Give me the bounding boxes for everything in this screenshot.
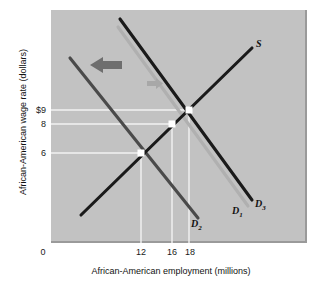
curve-label-s-text: S <box>256 38 262 49</box>
y-axis-title: African-American wage rate (dollars) <box>18 22 28 222</box>
equilibrium-point-d1-s <box>169 121 176 128</box>
leftward-shift-arrow <box>90 57 122 73</box>
curve-label-s: S <box>256 38 262 49</box>
demand-curve-d2 <box>70 58 198 218</box>
curve-label-d3: D3 <box>255 198 266 212</box>
curve-label-d2-sub: 2 <box>198 224 202 232</box>
curve-label-d2: D2 <box>191 218 202 232</box>
curve-label-d1-sub: 1 <box>239 211 243 219</box>
chart-figure: $9 8 6 0 12 16 18 African-American wage … <box>0 0 325 287</box>
supply-curve-s <box>81 48 252 215</box>
curve-label-d1: D1 <box>232 205 243 219</box>
equilibrium-point-d3-s <box>186 107 193 114</box>
equilibrium-point-d2-s <box>138 150 145 157</box>
x-tick-label-16: 16 <box>162 247 182 257</box>
x-axis-title: African-American employment (millions) <box>31 266 311 276</box>
x-tick-label-0: 0 <box>33 247 53 257</box>
curve-label-d3-sub: 3 <box>262 204 266 212</box>
x-tick-label-18: 18 <box>180 247 200 257</box>
x-tick-label-12: 12 <box>131 247 151 257</box>
chart-canvas <box>0 0 325 287</box>
